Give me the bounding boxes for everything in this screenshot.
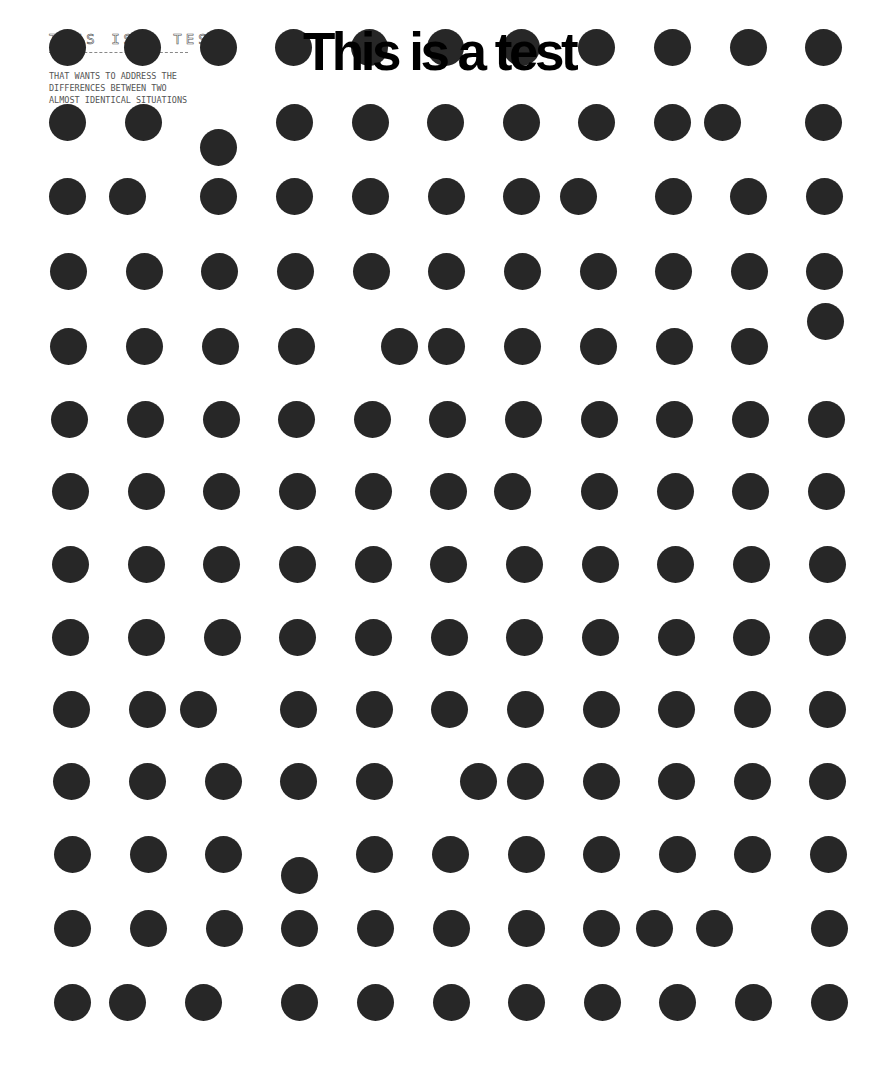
dot-r0-c7 bbox=[578, 29, 615, 66]
dot-r6-c1 bbox=[128, 473, 165, 510]
dot-r2-c0 bbox=[49, 178, 86, 215]
dot-r9-c3 bbox=[280, 691, 317, 728]
dot-r2-c8 bbox=[655, 178, 692, 215]
dot-r9-c7 bbox=[583, 691, 620, 728]
dot-r12-c10 bbox=[811, 910, 848, 947]
dot-r7-c0 bbox=[52, 546, 89, 583]
dot-r10-c1 bbox=[129, 763, 166, 800]
dot-r4-c7 bbox=[580, 328, 617, 365]
dot-r6-c0 bbox=[52, 473, 89, 510]
dot-r7-c8 bbox=[657, 546, 694, 583]
dot-r11-c6 bbox=[508, 836, 545, 873]
dot-r2-c9 bbox=[730, 178, 767, 215]
dot-r3-c10 bbox=[806, 253, 843, 290]
dot-r1-c10 bbox=[805, 104, 842, 141]
dot-r12-c8 bbox=[636, 910, 673, 947]
dot-r7-c4 bbox=[355, 546, 392, 583]
dot-r5-c5 bbox=[429, 401, 466, 438]
dot-r9-c6 bbox=[507, 691, 544, 728]
dot-r8-c5 bbox=[431, 619, 468, 656]
dot-r3-c1 bbox=[126, 253, 163, 290]
dot-r1-c1 bbox=[125, 104, 162, 141]
dot-r1-c7 bbox=[578, 104, 615, 141]
dot-r2-c1 bbox=[109, 178, 146, 215]
dot-r6-c4 bbox=[355, 473, 392, 510]
dot-r10-c0 bbox=[53, 763, 90, 800]
dot-r9-c9 bbox=[734, 691, 771, 728]
dot-r5-c0 bbox=[51, 401, 88, 438]
dot-r8-c9 bbox=[733, 619, 770, 656]
dot-r10-c6 bbox=[507, 763, 544, 800]
dot-r1-c8 bbox=[654, 104, 691, 141]
dot-r11-c0 bbox=[54, 836, 91, 873]
dot-r4-c0 bbox=[50, 328, 87, 365]
dot-r11-c2 bbox=[205, 836, 242, 873]
dot-r3-c7 bbox=[580, 253, 617, 290]
dot-r4-c2 bbox=[202, 328, 239, 365]
dot-r8-c0 bbox=[52, 619, 89, 656]
dot-r5-c2 bbox=[203, 401, 240, 438]
dot-r0-c9 bbox=[730, 29, 767, 66]
dot-r8-c1 bbox=[128, 619, 165, 656]
dot-r12-c4 bbox=[357, 910, 394, 947]
dot-r5-c4 bbox=[354, 401, 391, 438]
dot-r4-c10 bbox=[807, 303, 844, 340]
dot-r8-c10 bbox=[809, 619, 846, 656]
dot-r5-c3 bbox=[278, 401, 315, 438]
dot-r10-c2 bbox=[205, 763, 242, 800]
dot-r6-c7 bbox=[581, 473, 618, 510]
dot-r13-c0 bbox=[54, 984, 91, 1021]
dot-r8-c7 bbox=[582, 619, 619, 656]
dot-r7-c10 bbox=[809, 546, 846, 583]
dot-r12-c5 bbox=[433, 910, 470, 947]
dot-r6-c3 bbox=[279, 473, 316, 510]
dot-r12-c9 bbox=[696, 910, 733, 947]
dot-r2-c7 bbox=[560, 178, 597, 215]
dot-grid bbox=[0, 0, 889, 1087]
dot-r8-c2 bbox=[204, 619, 241, 656]
big-title: This is a test bbox=[303, 22, 575, 82]
dot-r10-c9 bbox=[734, 763, 771, 800]
dot-r11-c1 bbox=[130, 836, 167, 873]
dot-r5-c7 bbox=[581, 401, 618, 438]
dot-r7-c7 bbox=[582, 546, 619, 583]
dot-r3-c2 bbox=[201, 253, 238, 290]
dot-r9-c2 bbox=[180, 691, 217, 728]
dot-r0-c10 bbox=[805, 29, 842, 66]
dot-r12-c2 bbox=[206, 910, 243, 947]
dot-r4-c4 bbox=[381, 328, 418, 365]
dot-r3-c6 bbox=[504, 253, 541, 290]
dot-r4-c6 bbox=[504, 328, 541, 365]
dot-r1-c9 bbox=[704, 104, 741, 141]
dot-r7-c5 bbox=[430, 546, 467, 583]
dot-r13-c3 bbox=[281, 984, 318, 1021]
dot-r1-c2 bbox=[200, 129, 237, 166]
dot-r11-c3 bbox=[281, 857, 318, 894]
dot-r1-c3 bbox=[276, 104, 313, 141]
dot-r2-c10 bbox=[806, 178, 843, 215]
dot-r11-c5 bbox=[432, 836, 469, 873]
dot-r4-c8 bbox=[656, 328, 693, 365]
dot-r4-c1 bbox=[126, 328, 163, 365]
dot-r9-c0 bbox=[53, 691, 90, 728]
dot-r5-c1 bbox=[127, 401, 164, 438]
dot-r0-c8 bbox=[654, 29, 691, 66]
dot-r9-c1 bbox=[129, 691, 166, 728]
dot-r8-c4 bbox=[355, 619, 392, 656]
dot-r8-c8 bbox=[658, 619, 695, 656]
dot-r12-c6 bbox=[508, 910, 545, 947]
dot-r1-c6 bbox=[503, 104, 540, 141]
dot-r13-c2 bbox=[185, 984, 222, 1021]
dot-r11-c4 bbox=[356, 836, 393, 873]
dot-r1-c0 bbox=[49, 104, 86, 141]
dot-r9-c10 bbox=[809, 691, 846, 728]
dot-r6-c5 bbox=[430, 473, 467, 510]
dot-r12-c3 bbox=[281, 910, 318, 947]
dot-r13-c5 bbox=[433, 984, 470, 1021]
dot-r4-c3 bbox=[278, 328, 315, 365]
dot-r13-c4 bbox=[357, 984, 394, 1021]
dot-r2-c4 bbox=[352, 178, 389, 215]
dot-r9-c8 bbox=[658, 691, 695, 728]
dot-r13-c6 bbox=[508, 984, 545, 1021]
poster-canvas: THIS IS A TEST THAT WANTS TO ADDRESS THE… bbox=[0, 0, 889, 1087]
